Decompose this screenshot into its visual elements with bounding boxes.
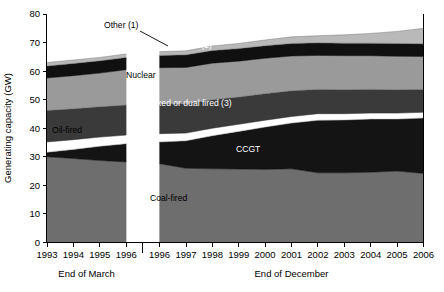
x-tick-label: 1995 xyxy=(89,249,110,260)
y-tick-label: 40 xyxy=(29,123,40,134)
x-tick-label: 1998 xyxy=(202,249,223,260)
stacked-area-chart: 01020304050607080 1993199419951996199619… xyxy=(0,0,444,292)
label-coal: Coal-fired xyxy=(150,193,187,203)
area-bands-group xyxy=(47,28,424,242)
x-tick-label: 2006 xyxy=(413,249,434,260)
x-tick-label: 2004 xyxy=(360,249,381,260)
x-tick-label: 2000 xyxy=(255,249,276,260)
x-tick-label: 1996 xyxy=(149,249,170,260)
y-tick-label: 60 xyxy=(29,66,40,77)
y-tick-label: 0 xyxy=(35,237,40,248)
x-tick-label: 2002 xyxy=(307,249,328,260)
y-tick-label: 20 xyxy=(29,180,40,191)
period-label-march: End of March xyxy=(58,268,115,279)
x-tick-label: 2005 xyxy=(387,249,408,260)
label-nuclear: Nuclear xyxy=(126,70,156,80)
label-ccgt: CCGT xyxy=(236,144,261,154)
label-hydro: Hydro (2) xyxy=(176,40,212,50)
chart-container: 01020304050607080 1993199419951996199619… xyxy=(0,0,444,292)
y-tick-label: 80 xyxy=(29,8,40,19)
y-tick-label: 10 xyxy=(29,208,40,219)
x-tick-label: 2003 xyxy=(334,249,355,260)
x-tick-label: 1996 xyxy=(116,249,137,260)
x-tick-label: 2001 xyxy=(281,249,302,260)
label-other: Other (1) xyxy=(104,20,139,30)
label-oil: Oil-fired xyxy=(52,125,82,135)
label-mixed: Mixed or dual fired (3) xyxy=(148,98,232,108)
x-tick-label: 1993 xyxy=(36,249,57,260)
period-label-december: End of December xyxy=(255,268,329,279)
x-tick-label: 1999 xyxy=(228,249,249,260)
y-axis-title: Generating capacity (GW) xyxy=(2,73,13,183)
y-tick-label: 50 xyxy=(29,94,40,105)
area-band-coal-fired-left xyxy=(47,157,126,243)
x-tick-label: 1994 xyxy=(63,249,84,260)
area-band-coal-fired-right xyxy=(160,164,424,243)
y-tick-label: 70 xyxy=(29,37,40,48)
y-tick-label: 30 xyxy=(29,151,40,162)
x-tick-label: 1997 xyxy=(175,249,196,260)
